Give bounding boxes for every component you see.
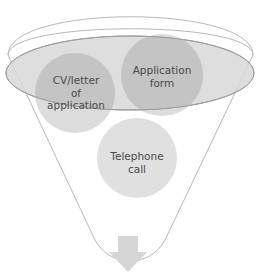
funnel-diagram bbox=[0, 0, 261, 274]
label-cv-letter: CV/letter of application bbox=[40, 74, 112, 112]
label-telephone-call: Telephone call bbox=[101, 150, 173, 175]
label-application-form: Application form bbox=[126, 64, 198, 89]
